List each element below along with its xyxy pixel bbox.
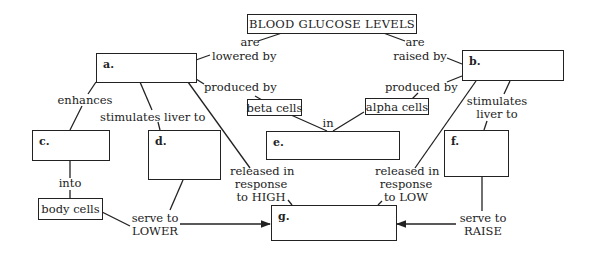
link-stimulates-liver-right: stimulates liver to [465,95,529,121]
link-are-lowered: are [230,36,270,49]
link-serve-to-lower: serve to LOWER [130,212,180,238]
body-cells-box: body cells [38,198,103,220]
box-d[interactable]: d. [148,130,221,180]
box-g[interactable]: g. [271,205,397,241]
box-e[interactable]: e. [266,131,400,160]
alpha-cells-box: alpha cells [365,98,429,115]
box-f-label: f. [451,135,459,148]
box-a-label: a. [103,58,114,71]
link-in: in [318,117,338,130]
body-cells-text: body cells [41,202,99,216]
beta-cells-text: beta cells [247,101,303,115]
link-released-low: released in response to LOW [375,165,437,204]
link-stimulates-liver-left: stimulates liver to [100,111,196,124]
beta-cells-box: beta cells [247,99,302,116]
link-serve-to-raise: serve to RAISE [458,212,508,238]
box-e-label: e. [273,136,284,149]
box-g-label: g. [278,210,290,223]
box-f[interactable]: f. [444,130,509,177]
box-a[interactable]: a. [96,53,197,83]
link-produced-by-right: produced by [385,81,457,94]
link-are-raised: are [395,36,435,49]
link-raised-by: raised by [392,50,448,63]
link-produced-by-left: produced by [204,81,276,94]
box-c[interactable]: c. [32,130,110,161]
box-b-label: b. [469,55,481,68]
link-lowered-by: lowered by [212,50,276,63]
title-text: BLOOD GLUCOSE LEVELS [249,17,415,31]
alpha-cells-text: alpha cells [366,100,428,114]
title-box: BLOOD GLUCOSE LEVELS [247,14,417,34]
link-into: into [55,177,85,190]
box-b[interactable]: b. [462,50,564,81]
link-enhances: enhances [55,94,115,107]
box-c-label: c. [39,135,50,148]
link-released-high: released in response to HIGH [230,165,292,204]
box-d-label: d. [155,135,167,148]
